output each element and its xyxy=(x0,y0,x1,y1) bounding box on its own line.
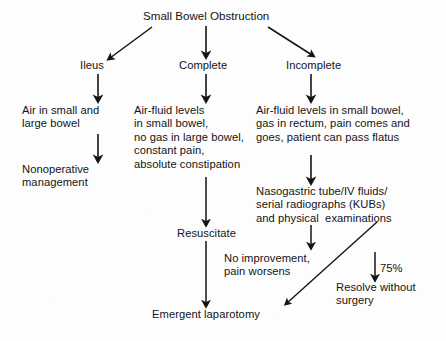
node-incomplete-management: Nasogastric tube/IV fluids/ serial radio… xyxy=(256,185,392,225)
arrow-title-to-ileus xyxy=(110,27,152,58)
branch-label-incomplete: Incomplete xyxy=(286,59,341,72)
flowchart-canvas: Small Bowel Obstruction Ileus Complete I… xyxy=(0,0,446,341)
node-resuscitate: Resuscitate xyxy=(177,227,236,240)
arrow-title-to-incomplete xyxy=(268,27,312,55)
node-no-improvement: No improvement, pain worsens xyxy=(224,252,310,279)
node-ileus-management: Nonoperative management xyxy=(22,163,89,190)
branch-label-complete: Complete xyxy=(179,59,227,72)
node-resolve-without-surgery: Resolve without surgery xyxy=(336,281,416,308)
branch-label-ileus: Ileus xyxy=(80,59,104,72)
node-emergent-laparotomy: Emergent laparotomy xyxy=(152,308,260,321)
node-incomplete-findings: Air-fluid levels in small bowel, gas in … xyxy=(256,104,410,144)
label-resolve-percent: 75% xyxy=(380,262,402,275)
node-ileus-findings: Air in small and large bowel xyxy=(22,104,99,131)
node-complete-findings: Air-fluid levels in small bowel, no gas … xyxy=(134,104,244,171)
diagram-title: Small Bowel Obstruction xyxy=(143,9,269,23)
